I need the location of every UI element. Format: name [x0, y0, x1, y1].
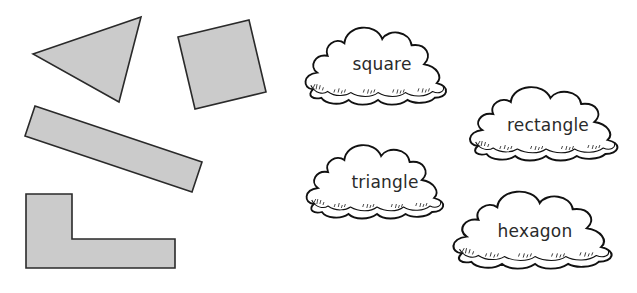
label-rectangle: rectangle: [507, 115, 589, 135]
l-hexagon-shape: [26, 194, 175, 268]
rectangle-shape: [25, 106, 202, 192]
worksheet-canvas: [0, 0, 637, 293]
label-square: square: [352, 54, 411, 74]
square-shape: [178, 20, 266, 109]
label-triangle: triangle: [351, 172, 418, 192]
label-hexagon: hexagon: [498, 221, 573, 241]
triangle-shape: [33, 17, 141, 102]
